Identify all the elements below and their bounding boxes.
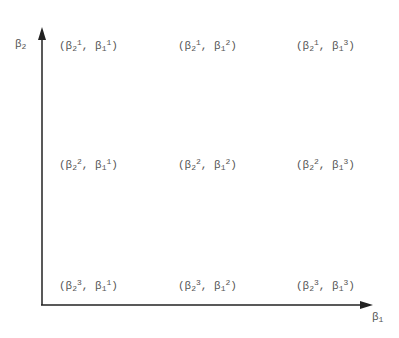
- y-axis-label: β2: [15, 38, 26, 53]
- open-paren: (: [296, 159, 303, 171]
- open-paren: (: [178, 40, 185, 52]
- beta1-base: β: [214, 280, 221, 292]
- separator: ,: [82, 280, 95, 292]
- grid-cell-r3-c2: (β23, β12): [178, 277, 237, 295]
- separator: ,: [82, 40, 95, 52]
- beta1-base: β: [214, 159, 221, 171]
- grid-cell-r3-c3: (β23, β13): [296, 277, 355, 295]
- separator: ,: [82, 159, 95, 171]
- grid-cell-r1-c2: (β21, β12): [178, 37, 237, 55]
- separator: ,: [201, 159, 214, 171]
- close-paren: ): [348, 40, 355, 52]
- close-paren: ): [230, 40, 237, 52]
- separator: ,: [319, 280, 332, 292]
- x-axis-label-base: β: [372, 311, 379, 323]
- open-paren: (: [296, 280, 303, 292]
- open-paren: (: [178, 159, 185, 171]
- grid-cell-r1-c3: (β21, β13): [296, 37, 355, 55]
- close-paren: ): [348, 159, 355, 171]
- beta1-base: β: [332, 40, 339, 52]
- close-paren: ): [111, 280, 118, 292]
- y-axis-arrow-icon: [38, 27, 46, 40]
- x-axis-label: β1: [372, 311, 383, 326]
- close-paren: ): [230, 280, 237, 292]
- close-paren: ): [111, 159, 118, 171]
- open-paren: (: [59, 159, 66, 171]
- separator: ,: [201, 40, 214, 52]
- beta1-base: β: [214, 40, 221, 52]
- beta1-base: β: [332, 159, 339, 171]
- y-axis-label-base: β: [15, 38, 22, 50]
- x-axis-arrow-icon: [360, 301, 373, 309]
- close-paren: ): [230, 159, 237, 171]
- beta1-base: β: [332, 280, 339, 292]
- separator: ,: [319, 40, 332, 52]
- open-paren: (: [59, 40, 66, 52]
- beta1-base: β: [95, 40, 102, 52]
- close-paren: ): [348, 280, 355, 292]
- beta1-base: β: [95, 280, 102, 292]
- open-paren: (: [296, 40, 303, 52]
- grid-cell-r1-c1: (β21, β11): [59, 37, 118, 55]
- grid-cell-r2-c3: (β22, β13): [296, 156, 355, 174]
- open-paren: (: [59, 280, 66, 292]
- open-paren: (: [178, 280, 185, 292]
- y-axis-label-sub: 2: [22, 42, 27, 51]
- separator: ,: [319, 159, 332, 171]
- grid-cell-r3-c1: (β23, β11): [59, 277, 118, 295]
- grid-cell-r2-c1: (β22, β11): [59, 156, 118, 174]
- beta1-base: β: [95, 159, 102, 171]
- close-paren: ): [111, 40, 118, 52]
- grid-cell-r2-c2: (β22, β12): [178, 156, 237, 174]
- x-axis-label-sub: 1: [379, 315, 384, 324]
- separator: ,: [201, 280, 214, 292]
